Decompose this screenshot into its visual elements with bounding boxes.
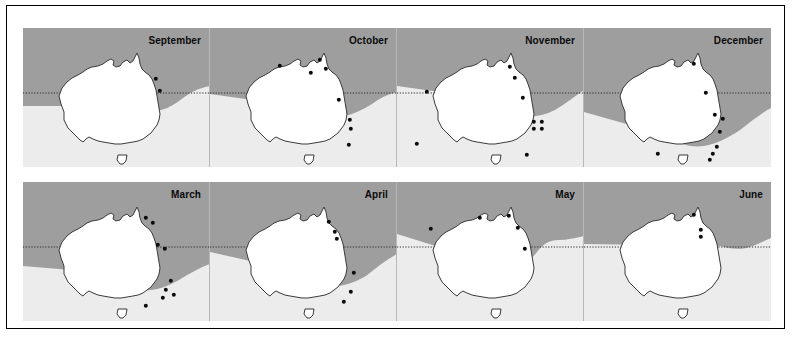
month-label: May — [555, 189, 575, 200]
map-panel-may[interactable]: May — [397, 182, 584, 321]
map-graphic — [584, 28, 771, 167]
map-graphic — [397, 28, 584, 167]
map-graphic — [210, 28, 397, 167]
map-graphic — [397, 182, 584, 321]
map-panel-september[interactable]: September — [23, 28, 210, 167]
map-panel-december[interactable]: December — [584, 28, 771, 167]
map-graphic — [584, 182, 771, 321]
figure-frame: SeptemberOctoberNovemberDecember MarchAp… — [6, 5, 785, 329]
map-graphic — [210, 182, 397, 321]
panel-row-bottom: MarchAprilMayJune — [23, 182, 771, 321]
figure-container: SeptemberOctoberNovemberDecember MarchAp… — [0, 0, 792, 337]
map-panel-november[interactable]: November — [397, 28, 584, 167]
map-panel-october[interactable]: October — [210, 28, 397, 167]
map-panel-april[interactable]: April — [210, 182, 397, 321]
month-label: December — [714, 35, 763, 46]
panel-row-top: SeptemberOctoberNovemberDecember — [23, 28, 771, 167]
map-graphic — [23, 28, 210, 167]
map-graphic — [23, 182, 210, 321]
month-label: March — [171, 189, 201, 200]
month-label: September — [148, 35, 201, 46]
month-label: April — [365, 189, 388, 200]
map-panel-march[interactable]: March — [23, 182, 210, 321]
month-label: October — [349, 35, 388, 46]
month-label: November — [525, 35, 575, 46]
month-label: June — [739, 189, 763, 200]
map-panel-june[interactable]: June — [584, 182, 771, 321]
